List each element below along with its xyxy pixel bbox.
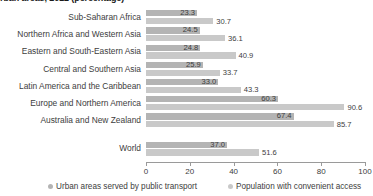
plot-area: 23.330.724.536.124.840.925.933.733.043.3…	[146, 9, 365, 159]
legend-item[interactable]: Population with convenient access	[228, 181, 361, 193]
bar-value-label: 43.3	[244, 86, 259, 94]
bar-group: 37.051.6	[146, 140, 365, 157]
x-axis-tick-label: 0	[144, 167, 148, 176]
legend-label: Urban areas served by public transport	[56, 182, 197, 191]
bar	[146, 87, 241, 93]
x-axis-tick	[365, 162, 366, 166]
x-axis-tick	[321, 162, 322, 166]
bar-value-label: 85.7	[337, 121, 352, 129]
category-axis-labels: Sub-Saharan AfricaNorthern Africa and We…	[0, 9, 141, 159]
category-label: Sub-Saharan Africa	[68, 9, 141, 26]
category-label: Eastern and South-Eastern Asia	[22, 43, 141, 60]
x-axis-tick-label: 40	[229, 167, 238, 176]
bar-group: 23.330.7	[146, 9, 365, 26]
legend-swatch-icon	[48, 184, 53, 189]
bar-group: 33.043.3	[146, 78, 365, 95]
category-label: Central and Southern Asia	[43, 61, 141, 78]
bar-value-label: 33.0	[201, 78, 216, 86]
bar-value-label: 33.7	[223, 69, 238, 77]
category-label: Latin America and the Caribbean	[19, 78, 141, 95]
bar-group: 60.390.6	[146, 95, 365, 112]
bar	[146, 96, 278, 102]
bar	[146, 18, 213, 24]
category-label: Australia and New Zealand	[40, 112, 141, 129]
bar-value-label: 51.6	[262, 149, 277, 157]
bar	[146, 121, 334, 127]
legend-swatch-icon	[228, 184, 233, 189]
bar-value-label: 25.9	[186, 61, 201, 69]
bar-value-label: 67.4	[277, 112, 292, 120]
category-label: World	[119, 140, 141, 157]
bar-value-label: 40.9	[239, 52, 254, 60]
x-axis-tick	[146, 162, 147, 166]
bar-value-label: 90.6	[347, 104, 362, 112]
x-axis-tick	[277, 162, 278, 166]
bar	[146, 149, 259, 155]
bar-group: 25.933.7	[146, 61, 365, 78]
bar	[146, 70, 220, 76]
legend-item[interactable]: Urban areas served by public transport	[48, 181, 197, 193]
bar-value-label: 24.5	[183, 26, 198, 34]
bar	[146, 113, 294, 119]
bar-value-label: 24.8	[184, 44, 199, 52]
category-label: Northern Africa and Western Asia	[17, 26, 141, 43]
x-axis-tick-label: 100	[358, 167, 371, 176]
bar	[146, 52, 236, 58]
bar	[146, 35, 225, 41]
bar-value-label: 37.0	[210, 141, 225, 149]
bar-value-label: 60.3	[261, 95, 276, 103]
x-axis-tick-label: 20	[185, 167, 194, 176]
chart-title: rban areas, 2022 (percentage)	[0, 0, 373, 3]
x-axis-line	[146, 162, 365, 163]
x-axis-tick-label: 80	[317, 167, 326, 176]
bar-value-label: 23.3	[180, 9, 195, 17]
category-label: Europe and Northern America	[30, 95, 141, 112]
x-axis-tick-label: 60	[273, 167, 282, 176]
chart-container: rban areas, 2022 (percentage) Sub-Sahara…	[0, 0, 373, 196]
bar-group: 24.840.9	[146, 43, 365, 60]
chart-legend: Urban areas served by public transportPo…	[0, 181, 373, 196]
x-axis-tick	[190, 162, 191, 166]
bar-group: 67.485.7	[146, 112, 365, 129]
bar-group: 24.536.1	[146, 26, 365, 43]
bar-value-label: 30.7	[216, 18, 231, 26]
x-axis-tick	[234, 162, 235, 166]
bar-value-label: 36.1	[228, 35, 243, 43]
legend-label: Population with convenient access	[236, 182, 361, 191]
bar	[146, 104, 344, 110]
